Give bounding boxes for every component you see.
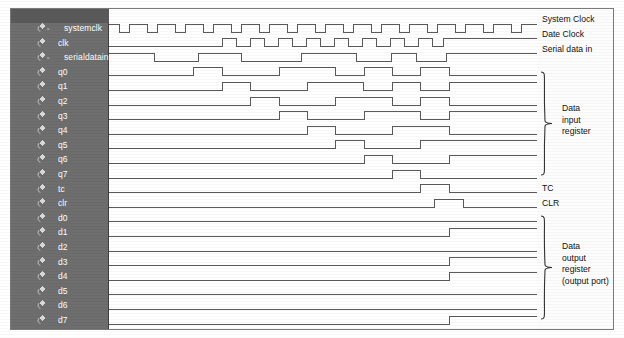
label-data-input-register-line-3: register [562,126,591,138]
signal-label-d2: d2 [58,240,68,254]
waveform-signal-icon [37,153,48,165]
waveform-signal-icon [37,168,48,180]
waveform-trace-q6 [109,155,537,163]
signal-row-d1[interactable]: d1 [11,225,109,239]
timing-diagram-screenshot: asystemclkclkaserialdatainq0q1q2q3q4q5q6… [0,0,624,338]
label-data-input-register-line-2: input [562,115,591,127]
signal-row-d6[interactable]: d6 [11,298,109,312]
waveform-signal-icon [37,183,48,195]
waveform-signal-icon [37,299,48,311]
label-data-output-register-line-3: register [562,264,609,276]
waveform-signal-icon [37,197,48,209]
signal-row-serialdatain[interactable]: aserialdatain [11,50,109,64]
signal-label-d7: d7 [58,313,68,327]
waveform-trace-d7 [109,316,537,324]
waveform-signal-icon [37,66,48,78]
signal-row-d3[interactable]: d3 [11,255,109,269]
signal-row-d4[interactable]: d4 [11,269,109,283]
label-data-input-register: Data input register [562,103,591,138]
label-data-output-register-line-2: output [562,253,609,265]
signal-badge-systemclk: a [47,26,49,31]
signal-row-d5[interactable]: d5 [11,284,109,298]
signal-label-q7: q7 [58,167,68,181]
waveform-signal-icon [37,139,48,151]
signal-label-d0: d0 [58,211,68,225]
label-data-output-register-line-1: Data [562,241,609,253]
waveform-signal-icon [37,95,48,107]
waveform-trace-tc [109,185,537,193]
waveform-traces [109,9,537,329]
signal-badge-serialdatain: a [47,55,49,60]
data-output-register-brace [539,215,555,320]
label-data-output-register: Data output register (output port) [562,241,609,287]
signal-label-q0: q0 [58,65,68,79]
signal-row-q4[interactable]: q4 [11,123,109,137]
signal-row-d2[interactable]: d2 [11,240,109,254]
waveform-canvas[interactable] [109,9,537,329]
waveform-trace-q2 [109,97,537,105]
signal-label-d6: d6 [58,298,68,312]
signal-label-q2: q2 [58,94,68,108]
waveform-trace-clr [109,199,537,207]
signal-row-q2[interactable]: q2 [11,94,109,108]
waveform-signal-icon [37,212,48,224]
signal-label-q4: q4 [58,123,68,137]
signal-label-d1: d1 [58,225,68,239]
waveform-trace-q1 [109,82,537,90]
signal-row-d0[interactable]: d0 [11,211,109,225]
signal-row-q5[interactable]: q5 [11,138,109,152]
waveform-trace-d3 [109,258,537,266]
waveform-signal-icon [37,80,48,92]
signal-row-q1[interactable]: q1 [11,79,109,93]
signal-row-q0[interactable]: q0 [11,65,109,79]
waveform-trace-q3 [109,112,537,120]
signal-row-q6[interactable]: q6 [11,152,109,166]
signal-label-d4: d4 [58,269,68,283]
waveform-trace-q5 [109,141,537,149]
waveform-signal-icon [37,124,48,136]
label-data-output-register-line-4: (output port) [562,276,609,288]
waveform-signal-icon [37,270,48,282]
waveform-trace-clk [109,39,537,47]
signal-label-clk: clk [58,36,69,50]
signal-row-q7[interactable]: q7 [11,167,109,181]
signal-row-systemclk[interactable]: asystemclk [11,21,109,35]
signal-row-tc[interactable]: tc [11,182,109,196]
signal-name-panel[interactable]: asystemclkclkaserialdatainq0q1q2q3q4q5q6… [11,9,109,329]
label-date-clock: Date Clock [542,29,584,40]
signal-label-clr: clr [58,196,67,210]
signal-label-d3: d3 [58,255,68,269]
label-serial-data-in: Serial data in [542,44,592,55]
waveform-signal-icon [37,314,48,326]
waveform-trace-serialdatain [109,53,537,61]
waveform-signal-icon [37,37,48,49]
label-clr: CLR [542,198,559,209]
waveform-signal-icon [37,110,48,122]
signal-label-q3: q3 [58,109,68,123]
waveform-trace-q0 [109,68,537,76]
signal-label-q1: q1 [58,79,68,93]
label-data-input-register-line-1: Data [562,103,591,115]
waveform-trace-d1 [109,228,537,236]
label-tc: TC [542,183,553,194]
waveform-trace-d4 [109,272,537,280]
signal-label-q5: q5 [58,138,68,152]
waveform-signal-icon [37,226,48,238]
signal-label-serialdatain: serialdatain [64,50,109,64]
signal-row-d7[interactable]: d7 [11,313,109,327]
signal-label-q6: q6 [58,152,68,166]
data-input-register-brace [539,71,555,176]
signal-label-d5: d5 [58,284,68,298]
waveform-signal-icon [37,241,48,253]
waveform-trace-systemclk [109,24,537,32]
waveform-trace-q4 [109,126,537,134]
waveform-signal-icon [37,285,48,297]
waveform-signal-icon [37,256,48,268]
waveform-trace-q7 [109,170,537,178]
signal-label-systemclk: systemclk [64,21,102,35]
signal-row-clk[interactable]: clk [11,36,109,50]
signal-label-tc: tc [58,182,65,196]
signal-row-q3[interactable]: q3 [11,109,109,123]
signal-row-clr[interactable]: clr [11,196,109,210]
label-system-clock: System Clock [542,14,595,25]
